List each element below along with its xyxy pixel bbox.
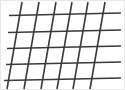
grid-figure-canvas [0,0,125,90]
grid-figure-container [0,0,125,90]
